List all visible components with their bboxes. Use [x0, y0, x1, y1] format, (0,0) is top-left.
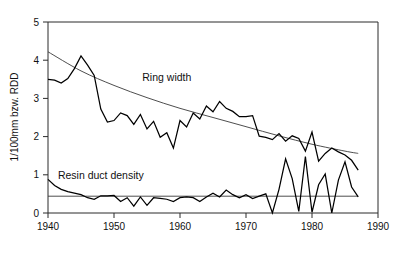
y-tick-label: 3 [33, 93, 39, 104]
y-tick-label: 5 [33, 17, 39, 28]
series-annotations: Ring widthResin duct density [58, 71, 192, 181]
x-axis-ticks [48, 213, 378, 218]
series-path [48, 56, 358, 170]
line-chart: 012345 194019501960197019801990 1/100mm … [0, 0, 407, 253]
series-label: Ring width [142, 71, 191, 83]
y-axis-ticks [43, 22, 48, 213]
x-tick-label: 1960 [169, 221, 192, 232]
series-label: Resin duct density [58, 169, 145, 181]
y-tick-label: 4 [33, 55, 39, 66]
y-tick-label: 0 [33, 208, 39, 219]
trend-line [48, 52, 358, 154]
series-path [48, 156, 358, 213]
y-tick-label: 2 [33, 131, 39, 142]
y-tick-label: 1 [33, 169, 39, 180]
x-tick-label: 1950 [103, 221, 126, 232]
x-axis-tick-labels: 194019501960197019801990 [37, 221, 390, 232]
x-tick-label: 1940 [37, 221, 60, 232]
y-axis-tick-labels: 012345 [33, 17, 39, 219]
data-series [48, 56, 358, 213]
x-tick-label: 1970 [235, 221, 258, 232]
x-tick-label: 1980 [301, 221, 324, 232]
y-axis-title: 1/100mm bzw. RDD [9, 73, 20, 162]
chart-container: 012345 194019501960197019801990 1/100mm … [0, 0, 407, 253]
x-tick-label: 1990 [367, 221, 390, 232]
